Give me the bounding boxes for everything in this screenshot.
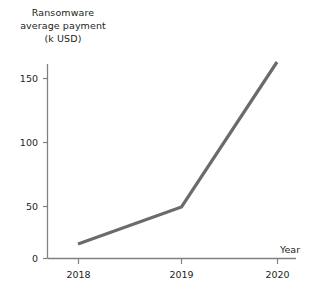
x-tick-label-2018: 2018	[66, 269, 90, 280]
y-tick-label-50: 50	[26, 201, 38, 212]
ransomware-payment-line-chart: Ransomware average payment (k USD) 0 50 …	[0, 0, 329, 295]
y-tick-label-100: 100	[20, 137, 38, 148]
data-series-line	[78, 62, 277, 244]
x-axis-title: Year	[279, 244, 300, 255]
plot-area: 0 50 100 150 2018 2019 2020 Year	[0, 0, 329, 295]
y-tick-label-150: 150	[20, 73, 38, 84]
x-tick-label-2020: 2020	[265, 269, 289, 280]
x-tick-label-2019: 2019	[169, 269, 193, 280]
y-tick-label-0: 0	[32, 253, 38, 264]
